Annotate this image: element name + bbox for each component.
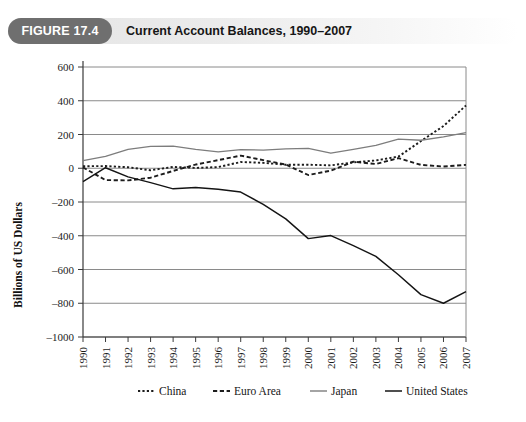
x-tick-label: 2006	[437, 347, 449, 370]
x-tick-label: 1990	[77, 347, 89, 370]
series-line-china	[83, 105, 466, 170]
y-tick-label: –800	[51, 297, 75, 309]
y-tick-marks	[78, 67, 83, 337]
data-series-group	[83, 105, 466, 303]
y-axis-title: Billions of US Dollars	[12, 202, 24, 308]
figure-number-badge: FIGURE 17.4	[8, 18, 112, 44]
y-tick-label: –1000	[46, 331, 75, 343]
y-tick-label: 400	[58, 95, 75, 107]
x-tick-label: 1992	[122, 347, 134, 369]
x-tick-labels: 1990199119921993199419951996199719981999…	[77, 347, 472, 370]
legend-label-japan: Japan	[331, 385, 357, 398]
x-tick-label: 1991	[100, 347, 112, 369]
figure-header-bar: FIGURE 17.4 Current Account Balances, 19…	[8, 18, 518, 44]
x-tick-marks	[83, 337, 466, 342]
chart-legend: ChinaEuro AreaJapanUnited States	[138, 385, 468, 398]
x-tick-label: 1994	[167, 347, 179, 370]
x-tick-label: 1999	[280, 347, 292, 370]
x-tick-label: 2005	[415, 347, 427, 370]
y-tick-label: –400	[51, 230, 75, 242]
x-tick-label: 1998	[257, 347, 269, 370]
legend-label-euro-area: Euro Area	[234, 385, 281, 397]
x-tick-label: 2007	[460, 347, 472, 370]
y-tick-labels: 6004002000–200–400–600–800–1000	[46, 61, 75, 343]
x-tick-label: 1997	[235, 347, 247, 370]
x-tick-label: 1996	[212, 347, 224, 370]
legend-label-china: China	[159, 385, 186, 397]
x-tick-label: 1995	[190, 347, 202, 370]
series-line-japan	[83, 133, 466, 161]
y-tick-label: 0	[69, 162, 75, 174]
y-tick-label: –600	[51, 264, 75, 276]
y-tick-label: 600	[58, 61, 75, 73]
line-chart: Billions of US Dollars 6004002000–200–40…	[0, 50, 526, 422]
x-tick-label: 1993	[145, 347, 157, 370]
y-tick-label: –200	[51, 196, 75, 208]
x-tick-label: 2002	[347, 347, 359, 369]
y-tick-label: 200	[58, 129, 75, 141]
figure-title: Current Account Balances, 1990–2007	[126, 24, 352, 38]
x-tick-label: 2000	[302, 347, 314, 370]
x-tick-label: 2004	[392, 347, 404, 370]
chart-container: Billions of US Dollars 6004002000–200–40…	[0, 50, 526, 422]
legend-label-united-states: United States	[406, 385, 468, 397]
x-tick-label: 2003	[370, 347, 382, 370]
gridlines	[83, 67, 466, 337]
x-tick-label: 2001	[325, 347, 337, 369]
